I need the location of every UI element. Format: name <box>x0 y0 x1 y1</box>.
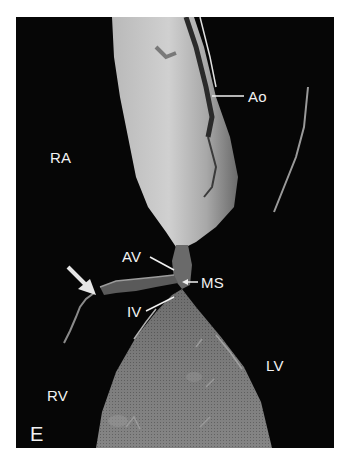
label-ms: MS <box>201 275 224 290</box>
lv-wall-line <box>274 87 308 212</box>
anatomical-figure-panel: Ao RA AV MS IV LV RV E <box>16 17 334 448</box>
av-leader-line <box>150 257 174 270</box>
label-lv: LV <box>266 358 284 373</box>
white-arrow-icon <box>68 267 96 295</box>
label-rv: RV <box>47 388 68 403</box>
label-ra: RA <box>50 150 71 165</box>
label-av: AV <box>122 249 141 264</box>
label-iv: IV <box>127 304 142 319</box>
heart-section-image <box>16 17 334 448</box>
label-ao: Ao <box>248 89 267 104</box>
rv-free-wall-line <box>64 293 94 343</box>
panel-letter: E <box>30 424 44 444</box>
